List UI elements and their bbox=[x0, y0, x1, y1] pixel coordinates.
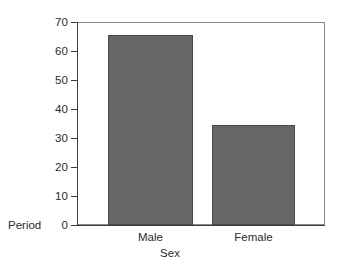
y-axis-tick-label: 30 bbox=[55, 133, 68, 145]
y-axis-title: Period bbox=[8, 219, 41, 231]
y-axis-tick-label: 10 bbox=[55, 191, 68, 203]
y-axis-tick bbox=[71, 225, 77, 226]
x-axis-title: Sex bbox=[0, 247, 340, 259]
y-axis-tick-label: 50 bbox=[55, 75, 68, 87]
bar-female bbox=[212, 125, 295, 225]
y-axis-tick-label: 70 bbox=[55, 17, 68, 29]
y-axis-tick-label: 60 bbox=[55, 46, 68, 58]
y-axis-tick-label: 0 bbox=[62, 220, 69, 232]
bar-male bbox=[108, 35, 193, 225]
y-axis-tick bbox=[71, 167, 77, 168]
y-axis-tick bbox=[71, 109, 77, 110]
bar-chart: 70 60 50 40 30 20 10 0 Male Female Sex P… bbox=[0, 0, 340, 267]
y-axis-tick bbox=[71, 22, 77, 23]
x-axis-tick-label-female: Female bbox=[212, 231, 295, 243]
y-axis-line bbox=[77, 22, 78, 226]
y-axis-tick-label: 40 bbox=[55, 104, 68, 116]
y-axis-tick bbox=[71, 80, 77, 81]
y-axis-tick-label: 20 bbox=[55, 162, 68, 174]
y-axis-tick bbox=[71, 138, 77, 139]
y-axis-tick bbox=[71, 51, 77, 52]
y-axis-tick bbox=[71, 196, 77, 197]
x-axis-tick-label-male: Male bbox=[108, 231, 193, 243]
